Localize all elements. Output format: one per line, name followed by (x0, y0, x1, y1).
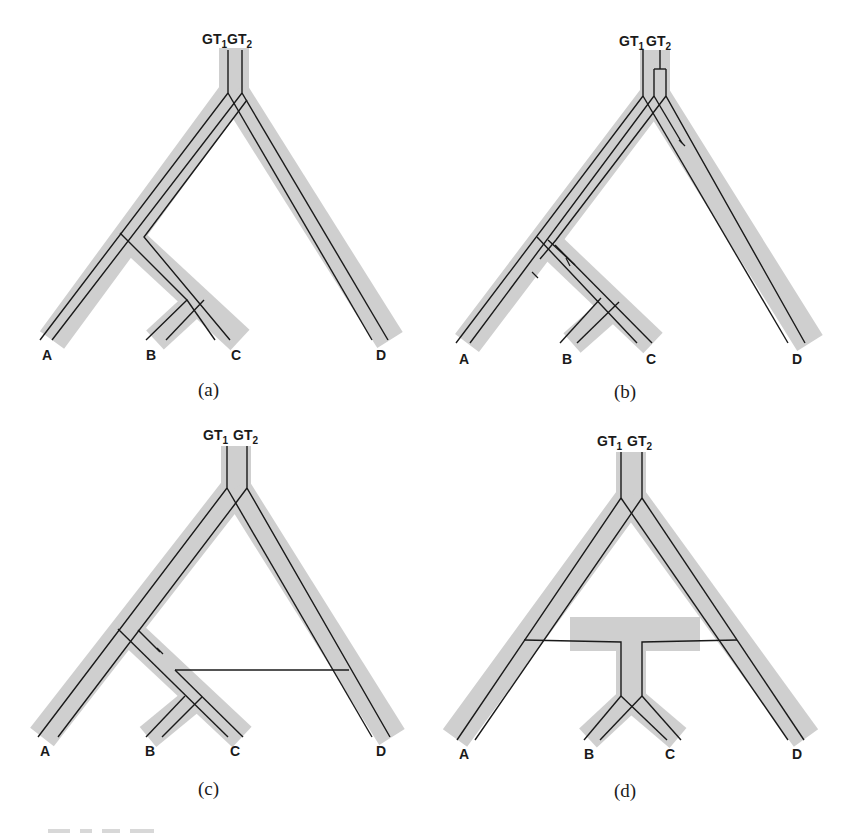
taxon-label-C: C (646, 351, 656, 367)
taxon-label-A: A (42, 347, 52, 363)
taxon-label-C: C (231, 347, 241, 363)
panel-b: GT1GT2 A B C D (b) (456, 33, 810, 403)
taxon-label-D: D (376, 347, 386, 363)
phylogeny-figure: GT1GT2 A B C D (a) (0, 0, 843, 837)
taxon-label-A: A (459, 746, 469, 762)
taxon-label-A: A (40, 743, 50, 759)
species-tree-c (42, 446, 392, 737)
panel-caption-b: (b) (614, 381, 636, 403)
taxon-label-C: C (230, 743, 240, 759)
gene-label-a: GT1GT2 (202, 31, 252, 50)
panel-c: GT1GT2 A B C D (c) (38, 427, 392, 800)
panel-caption-c: (c) (198, 778, 219, 800)
gene-label-c: GT1GT2 (203, 427, 258, 446)
panel-d: GT1GT2 A B C D (d) (455, 433, 806, 802)
taxon-label-A: A (459, 351, 469, 367)
species-tree-b (467, 50, 810, 343)
taxon-label-B: B (146, 347, 156, 363)
species-tree-d (455, 452, 806, 738)
figure-caption-fragment (48, 821, 188, 827)
species-tree-a (52, 48, 390, 340)
taxon-label-D: D (792, 351, 802, 367)
taxon-label-B: B (145, 743, 155, 759)
panel-caption-a: (a) (198, 379, 219, 401)
taxon-label-B: B (584, 746, 594, 762)
gene-label-d: GT1GT2 (597, 433, 652, 452)
taxon-label-D: D (792, 746, 802, 762)
panel-caption-d: (d) (614, 780, 636, 802)
gene-label-b: GT1GT2 (619, 33, 671, 52)
panel-a: GT1GT2 A B C D (a) (40, 31, 390, 401)
taxon-label-C: C (665, 746, 675, 762)
taxon-label-D: D (376, 743, 386, 759)
taxon-label-B: B (562, 351, 572, 367)
